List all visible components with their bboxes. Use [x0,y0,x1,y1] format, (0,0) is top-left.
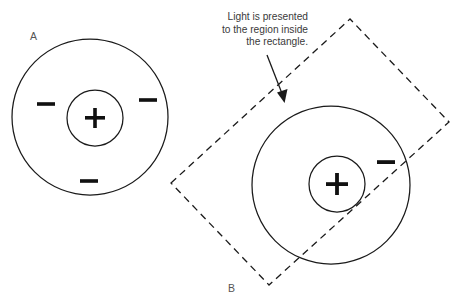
annotation-arrow [267,55,288,103]
plus-vertical-bar [93,108,97,128]
panel-b-group: B [171,19,449,294]
panel-a-label: A [30,30,37,42]
annotation-arrow-head [277,89,288,103]
annotation-arrow-line [267,55,282,94]
panel-b-plus-sign [326,173,348,195]
panel-b-label: B [228,282,235,294]
plus-vertical-bar [335,173,339,195]
light-region-rectangle [171,19,449,285]
light-annotation-text: Light is presented to the region inside … [222,11,308,49]
panel-a-minus-sign-bottom [80,179,98,183]
panel-a-plus-sign [85,108,105,128]
panel-a-minus-sign-right [139,98,157,102]
annotation-line-1: Light is presented [222,11,308,24]
panel-b-minus-sign-right [377,160,395,164]
annotation-line-2: to the region inside [222,24,308,37]
panel-a-group: A [12,30,168,195]
annotation-line-3: the rectangle. [222,36,308,49]
panel-a-minus-sign-left [37,102,55,106]
figure-canvas: A B Light is presented to the region [0,0,463,307]
